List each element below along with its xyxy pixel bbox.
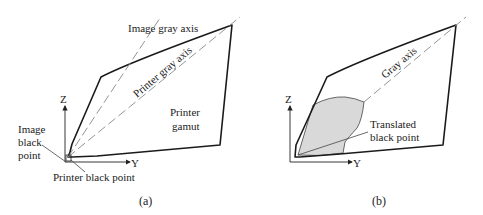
printer-gamut-label-line1: Printer [170,106,200,118]
printer-black-point-label: Printer black point [53,171,135,183]
y-axis-label: Y [131,157,139,169]
gray-axis-line [364,17,466,102]
y-axis-label-b: Y [353,157,361,169]
z-axis-label: Z [60,93,67,105]
panel-b-caption: (b) [372,194,386,208]
image-black-point-label-line2: black [18,136,42,148]
translated-black-point-label-line1: Translated [370,118,417,130]
z-axis-label-b: Z [285,93,292,105]
translated-black-point-label-line2: black point [370,131,419,143]
printer-gamut-label-line2: gamut [172,120,200,132]
translated-image-gamut-region [298,97,364,156]
gray-axis-label: Gray axis [379,44,419,80]
image-black-point-label-line1: Image [18,123,46,135]
image-black-point-leader [42,145,66,162]
printer-gray-axis-label: Printer gray axis [131,44,194,100]
panel-b: Z Y Gray axis Translated black point (b) [285,17,466,208]
panel-a-caption: (a) [139,194,152,208]
panel-a: Z Y Image gray axis Printer gray axis Pr… [18,17,240,208]
gamut-mapping-diagram: Z Y Image gray axis Printer gray axis Pr… [0,0,483,215]
printer-gray-axis-line [68,17,240,157]
image-gray-axis-label: Image gray axis [128,22,198,34]
image-black-point-label-line3: point [18,149,41,161]
